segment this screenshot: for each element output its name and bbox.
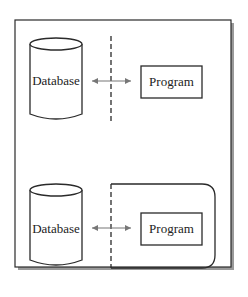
program-label: Program	[149, 74, 194, 89]
database-program-diagram: Database Program Database Program	[0, 0, 248, 297]
database-label: Database	[32, 221, 80, 236]
database-label: Database	[32, 73, 80, 88]
program-label: Program	[149, 221, 194, 236]
